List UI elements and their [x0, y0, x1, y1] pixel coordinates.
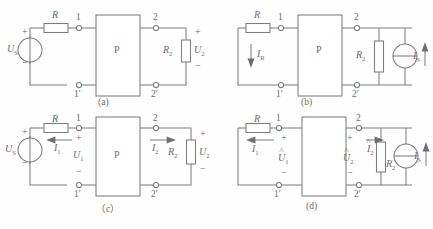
panel-c-load-label: R2: [168, 147, 177, 157]
panel-a-terminal-1: 1: [76, 13, 81, 23]
circuit-figure: R US + − 1 1′ 2 2′ P R2 U2 + − (a): [0, 0, 433, 229]
panel-d-terminal-1: 1: [276, 114, 281, 124]
panel-d-resistor-label: R: [254, 114, 260, 124]
panel-d-terminal-2p: 2′: [354, 190, 361, 200]
panel-b-source-label: IS: [413, 51, 420, 61]
panel-a-source-minus: −: [22, 58, 28, 68]
panel-c-voltage-1-minus: −: [76, 167, 82, 177]
panel-c-box-label: P: [114, 150, 120, 160]
panel-c-terminal-2: 2: [153, 114, 158, 124]
panel-d-voltage-2-label: U2: [343, 153, 353, 163]
panel-b-terminal-1p: 1′: [276, 90, 283, 100]
panel-a-load-label: R2: [163, 45, 172, 55]
panel-a-load-minus: −: [195, 61, 201, 71]
panel-c-terminal-1p: 1′: [74, 190, 81, 200]
panel-a-caption: (a): [98, 98, 109, 108]
panel-c-source-plus: +: [22, 127, 28, 137]
panel-a-terminal-2p: 2′: [151, 90, 158, 100]
panel-b-branch-current-label: IR: [257, 49, 265, 59]
panel-c-voltage-2-plus: +: [200, 129, 206, 139]
panel-d-terminal-2: 2: [356, 114, 361, 124]
panel-a-source-label: US: [7, 44, 18, 54]
panel-b-resistor-label: R: [254, 10, 260, 20]
panel-b-box-label: P: [316, 45, 322, 55]
panel-d-schematic: [216, 114, 433, 229]
panel-d-voltage-2-minus: −: [347, 168, 353, 178]
panel-c-caption: （c）: [96, 205, 120, 215]
panel-c-voltage-1-plus: +: [76, 133, 82, 143]
panel-d-current-1-label: I1: [252, 144, 259, 154]
panel-b-schematic: [216, 0, 433, 115]
panel-a-terminal-1p: 1′: [74, 90, 81, 100]
panel-d-voltage-1-minus: −: [281, 168, 287, 178]
panel-d-voltage-1-label: U1: [278, 153, 288, 163]
panel-d-terminal-1p: 1′: [274, 190, 281, 200]
panel-c-current-1-label: I1: [54, 143, 61, 153]
panel-c-terminal-2p: 2′: [151, 190, 158, 200]
panel-b: R IR 1 1′ 2 2′ P R2 IS (b): [216, 0, 433, 115]
panel-b-terminal-2p: 2′: [352, 90, 359, 100]
panel-c-source-minus: −: [22, 158, 28, 168]
panel-d-voltage-2-plus: +: [347, 133, 353, 143]
panel-a-box-label: P: [114, 45, 120, 55]
panel-b-load-label: R2: [356, 50, 365, 60]
panel-a-resistor-label: R: [52, 10, 58, 20]
panel-c-resistor-label: R: [52, 114, 58, 124]
panel-d-caption: (d): [306, 202, 317, 212]
panel-a: R US + − 1 1′ 2 2′ P R2 U2 + − (a): [0, 0, 217, 115]
panel-c-voltage-2-minus: −: [200, 164, 206, 174]
panel-c-current-2-label: I2: [152, 143, 159, 153]
panel-d: R I1 U1 + − 1 1′ 2 2′ I2 U2 + − R2 IS (d…: [216, 114, 433, 229]
panel-a-terminal-2: 2: [153, 13, 158, 23]
panel-a-source-plus: +: [22, 27, 28, 37]
panel-d-current-2-label: I2: [367, 144, 374, 154]
panel-c-terminal-1: 1: [76, 114, 81, 124]
panel-b-terminal-1: 1: [278, 13, 283, 23]
panel-c-voltage-2-label: U2: [199, 147, 209, 157]
panel-d-source-label: IS: [414, 151, 421, 161]
panel-c: R US + − I1 U1 + − 1 1′ 2 2′ P I2 R2 U2 …: [0, 114, 217, 229]
panel-a-load-plus: +: [195, 27, 201, 37]
panel-b-terminal-2: 2: [354, 13, 359, 23]
panel-a-load-voltage-label: U2: [194, 45, 204, 55]
panel-c-voltage-1-label: U1: [73, 150, 83, 160]
panel-c-source-label: US: [5, 144, 16, 154]
panel-d-load-label: R2: [386, 159, 395, 169]
panel-d-voltage-1-plus: +: [281, 133, 287, 143]
panel-b-caption: (b): [301, 98, 312, 108]
